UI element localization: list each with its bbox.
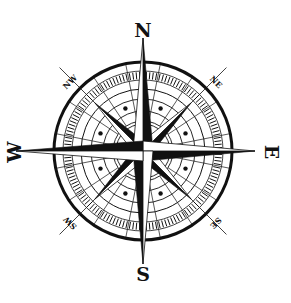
label-southwest: SW: [60, 214, 78, 232]
label-west: W: [3, 141, 25, 164]
label-northeast: NE: [208, 74, 225, 91]
label-east: E: [261, 145, 283, 159]
label-northwest: NW: [61, 72, 80, 91]
label-southeast: SE: [208, 215, 223, 230]
label-south: S: [136, 263, 150, 285]
label-north: N: [134, 19, 151, 41]
compass-rose: N S E W NW NE SE SW: [0, 0, 291, 303]
compass-star: [16, 38, 255, 264]
